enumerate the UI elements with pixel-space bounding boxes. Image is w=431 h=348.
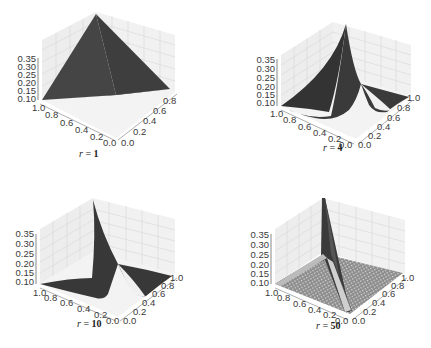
z-tick-labels: 0.35 0.30 0.25 0.20 0.15 0.10 (257, 54, 276, 108)
svg-text:0.8: 0.8 (45, 109, 58, 120)
svg-text:1.0: 1.0 (270, 108, 283, 119)
svg-text:0.6: 0.6 (298, 121, 311, 132)
svg-text:0.8: 0.8 (397, 102, 410, 113)
svg-text:0.4: 0.4 (75, 124, 88, 135)
z-tick-labels: 0.35 0.30 0.25 0.20 0.15 0.10 (18, 53, 37, 104)
svg-text:0.6: 0.6 (60, 297, 73, 308)
svg-text:1.0: 1.0 (407, 92, 420, 103)
svg-text:0.4: 0.4 (143, 115, 156, 126)
svg-text:0.4: 0.4 (313, 127, 326, 138)
svg-text:1.0: 1.0 (170, 272, 183, 283)
svg-text:0.4: 0.4 (308, 304, 321, 315)
plot-r50: 0.35 0.30 0.25 0.20 0.15 0.10 1.0 0.8 0.… (215, 174, 430, 348)
svg-text:0.4: 0.4 (77, 303, 90, 314)
svg-text:0.2: 0.2 (133, 126, 146, 137)
plot-r4: 0.35 0.30 0.25 0.20 0.15 0.10 1.0 0.8 0.… (215, 0, 430, 174)
caption-r10: r = 10 (77, 318, 102, 329)
svg-text:0.2: 0.2 (90, 131, 103, 142)
svg-text:0.8: 0.8 (163, 95, 176, 106)
surface-plot-r1: 0.35 0.30 0.25 0.20 0.15 0.10 1.0 0.8 0.… (0, 0, 215, 174)
svg-text:0.6: 0.6 (153, 105, 166, 116)
svg-text:0.0: 0.0 (106, 315, 119, 326)
svg-text:0.10: 0.10 (257, 97, 276, 108)
svg-text:0.6: 0.6 (293, 298, 306, 309)
svg-text:0.10: 0.10 (16, 276, 35, 287)
svg-text:1.0: 1.0 (401, 272, 414, 283)
caption-r50: r = 50 (316, 320, 341, 331)
svg-text:0.6: 0.6 (60, 117, 73, 128)
svg-text:1.0: 1.0 (32, 102, 45, 113)
plot-r10: 0.35 0.30 0.25 0.20 0.15 0.10 1.0 0.8 0.… (0, 174, 215, 348)
svg-text:0.0: 0.0 (103, 137, 116, 148)
z-tick-labels: 0.35 0.30 0.25 0.20 0.15 0.10 (251, 229, 270, 288)
svg-text:0.8: 0.8 (277, 292, 290, 303)
svg-text:0.8: 0.8 (44, 292, 57, 303)
caption-r1: r = 1 (79, 148, 99, 159)
plot-r1: 0.35 0.30 0.25 0.20 0.15 0.10 1.0 0.8 0.… (0, 0, 215, 174)
svg-text:0.6: 0.6 (387, 112, 400, 123)
svg-text:0.8: 0.8 (283, 114, 296, 125)
surface-plot-r10: 0.35 0.30 0.25 0.20 0.15 0.10 1.0 0.8 0.… (0, 174, 215, 348)
z-tick-labels: 0.35 0.30 0.25 0.20 0.15 0.10 (16, 228, 35, 287)
caption-r4: r = 4 (323, 142, 343, 153)
svg-text:0.0: 0.0 (121, 137, 134, 148)
